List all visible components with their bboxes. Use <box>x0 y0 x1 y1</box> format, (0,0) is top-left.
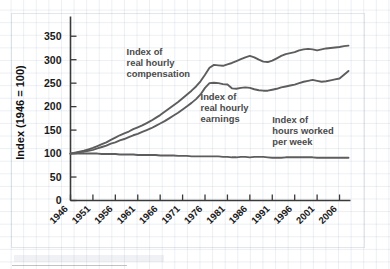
x-tick-label: 1971 <box>159 203 182 226</box>
x-tick-label: 2006 <box>316 203 339 226</box>
x-tick-label: 1961 <box>114 203 137 226</box>
source-note-container: SOURCES: Statistics Canada, Employment, … <box>368 0 390 269</box>
hours-label-line-1: Index of <box>272 114 309 125</box>
hours-label-line-2: hours worked <box>272 125 334 136</box>
earnings-label-line-3: earnings <box>201 113 240 124</box>
x-tick-label: 1996 <box>271 203 294 226</box>
x-tick-label: 2001 <box>294 203 317 226</box>
compensation-label-line-1: Index of <box>127 46 164 57</box>
earnings-label-line-2: real hourly <box>201 102 250 113</box>
y-tick-label: 100 <box>44 147 62 159</box>
bottom-partial-artifact <box>14 255 164 262</box>
x-tick-label: 1986 <box>226 203 249 226</box>
x-tick-label: 1991 <box>249 203 272 226</box>
earnings-label-line-1: Index of <box>201 91 238 102</box>
line-chart: 0501001502002503003501946195119561961196… <box>0 0 390 269</box>
x-tick-label: 1976 <box>182 203 205 226</box>
x-tick-label: 1981 <box>204 203 227 226</box>
series-line-3 <box>71 154 349 158</box>
y-tick-label: 350 <box>44 30 62 42</box>
y-tick-label: 50 <box>50 171 62 183</box>
y-axis-title: Index (1946 = 100) <box>14 65 26 160</box>
y-tick-label: 250 <box>44 77 62 89</box>
x-tick-label: 1956 <box>92 203 115 226</box>
y-tick-label: 200 <box>44 100 62 112</box>
compensation-label-line-2: real hourly <box>127 57 176 68</box>
y-tick-label: 150 <box>44 124 62 136</box>
y-tick-label: 300 <box>44 54 62 66</box>
x-tick-label: 1966 <box>137 203 160 226</box>
bottom-rule <box>12 265 127 266</box>
compensation-label-line-3: compensation <box>127 68 191 79</box>
x-tick-label: 1946 <box>47 203 70 226</box>
hours-label-line-3: per week <box>272 136 313 147</box>
x-tick-label: 1951 <box>69 203 92 226</box>
chart-svg: 0501001502002503003501946195119561961196… <box>0 0 390 269</box>
